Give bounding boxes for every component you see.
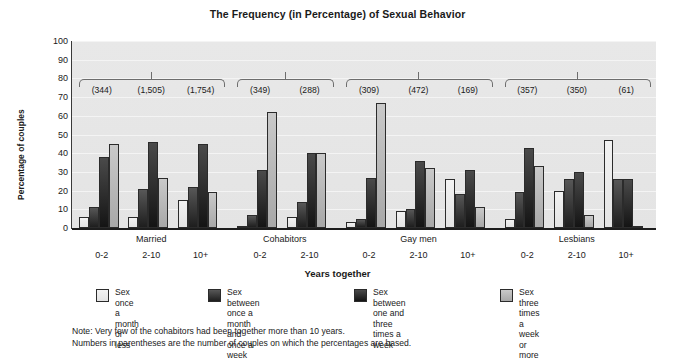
sample-size-label: (344) (79, 85, 124, 95)
y-axis-tick: 80 (34, 74, 68, 83)
x-axis-tick-label: 10+ (445, 250, 490, 260)
x-axis-tick-label: 10+ (604, 250, 649, 260)
bracket-tick (285, 72, 286, 80)
sample-size-label: (1,505) (128, 85, 173, 95)
legend-swatch (208, 289, 221, 302)
sample-size-brackets: (344)(1,505)(1,754)(349)(288)(309)(472)(… (72, 41, 656, 228)
sample-size-label: (472) (396, 85, 441, 95)
chart-title: The Frequency (in Percentage) of Sexual … (0, 8, 675, 20)
x-axis-group-label: Cohabitors (237, 234, 332, 244)
sample-size-label: (349) (237, 85, 282, 95)
y-axis-tick: 70 (34, 93, 68, 102)
x-axis-tick-label: 0-2 (79, 250, 124, 260)
x-axis-group-label: Gay men (346, 234, 490, 244)
sample-size-label: (61) (604, 85, 649, 95)
y-axis-tick: 90 (34, 56, 68, 65)
sample-size-label: (309) (346, 85, 391, 95)
x-axis-group-label: Married (79, 234, 223, 244)
y-axis-tick: 50 (34, 131, 68, 140)
x-axis-tick-label: 2-10 (396, 250, 441, 260)
y-axis-tick: 10 (34, 205, 68, 214)
x-axis-line (72, 228, 656, 230)
chart-footnotes: Note: Very few of the cohabitors had bee… (72, 326, 632, 349)
sample-size-label: (350) (554, 85, 599, 95)
x-axis-group-label: Lesbians (505, 234, 649, 244)
sample-size-label: (169) (445, 85, 490, 95)
footnote-line: Note: Very few of the cohabitors had bee… (72, 326, 632, 338)
x-axis-tick-label: 2-10 (128, 250, 173, 260)
chart-root: The Frequency (in Percentage) of Sexual … (0, 0, 675, 358)
x-axis-tick-label: 0-2 (346, 250, 391, 260)
legend-swatch (354, 289, 367, 302)
bracket-tick (151, 72, 152, 80)
sample-size-label: (1,754) (178, 85, 223, 95)
x-axis-tick-label: 2-10 (287, 250, 332, 260)
legend-swatch (96, 289, 109, 302)
bracket-tick (418, 72, 419, 80)
legend-swatch (500, 289, 513, 302)
x-axis-tick-label: 0-2 (237, 250, 282, 260)
y-axis-tick: 20 (34, 187, 68, 196)
bracket-tick (577, 72, 578, 80)
chart-legend: Sex once a month or lessSex between once… (96, 288, 596, 316)
y-axis-tick: 40 (34, 149, 68, 158)
y-axis-tick: 30 (34, 168, 68, 177)
y-axis-label: Percentage of couples (16, 109, 26, 200)
y-axis-tick: 0 (34, 224, 68, 233)
footnote-line: Numbers in parentheses are the number of… (72, 338, 632, 350)
x-axis-tick-label: 2-10 (554, 250, 599, 260)
x-axis-tick-label: 10+ (178, 250, 223, 260)
x-axis-tick-label: 0-2 (505, 250, 550, 260)
sample-size-label: (288) (287, 85, 332, 95)
x-axis-title: Years together (0, 268, 675, 279)
sample-size-label: (357) (505, 85, 550, 95)
y-axis-ticks: 0102030405060708090100 (30, 0, 68, 358)
y-axis-tick: 60 (34, 112, 68, 121)
y-axis-tick: 100 (34, 37, 68, 46)
